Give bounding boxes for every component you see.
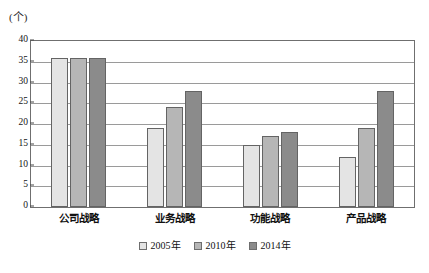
y-axis-tick-label: 25: [2, 98, 28, 108]
y-axis-tick-label: 10: [2, 160, 28, 170]
y-axis-tick-mark: [30, 185, 34, 186]
y-axis-tick-mark: [30, 40, 34, 41]
bar: [377, 91, 394, 207]
legend-item[interactable]: 2005年: [139, 240, 181, 251]
bar: [147, 128, 164, 207]
y-axis: 0510152025303540: [0, 40, 28, 208]
y-axis-tick-label: 15: [2, 139, 28, 149]
x-axis-category-label: 产品战略: [318, 212, 414, 226]
bar-chart: (个) 0510152025303540 公司战略业务战略功能战略产品战略 20…: [0, 0, 429, 273]
y-axis-tick-mark: [30, 143, 34, 144]
y-axis-tick-label: 35: [2, 56, 28, 66]
bar: [89, 58, 106, 207]
y-axis-tick-label: 30: [2, 77, 28, 87]
bar: [281, 132, 298, 207]
bar: [51, 58, 68, 207]
bar: [262, 136, 279, 207]
legend-item[interactable]: 2010年: [194, 240, 236, 251]
y-axis-tick-mark: [30, 81, 34, 82]
y-axis-tick-mark: [30, 60, 34, 61]
legend-item[interactable]: 2014年: [249, 240, 291, 251]
bar-group: [339, 41, 394, 207]
legend-swatch-icon: [139, 242, 147, 250]
bar-group: [147, 41, 202, 207]
legend-swatch-icon: [249, 242, 257, 250]
y-axis-unit-label: (个): [9, 11, 27, 24]
legend-swatch-icon: [194, 242, 202, 250]
bars-layer: [31, 41, 414, 207]
y-axis-tick-label: 0: [2, 201, 28, 211]
legend-label: 2005年: [151, 240, 181, 251]
bar-group: [243, 41, 298, 207]
bar: [243, 145, 260, 207]
legend-label: 2010年: [206, 240, 236, 251]
bar: [358, 128, 375, 207]
x-axis-category-label: 业务战略: [127, 212, 223, 226]
bar-group: [51, 41, 106, 207]
x-axis-category-label: 功能战略: [223, 212, 319, 226]
bar: [166, 107, 183, 207]
x-axis-category-label: 公司战略: [31, 212, 127, 226]
y-axis-tick-label: 20: [2, 118, 28, 128]
y-axis-tick-label: 5: [2, 181, 28, 191]
y-axis-tick-label: 40: [2, 35, 28, 45]
y-axis-tick-mark: [30, 102, 34, 103]
y-axis-tick-mark: [30, 206, 34, 207]
bar: [70, 58, 87, 207]
x-axis-category-labels: 公司战略业务战略功能战略产品战略: [31, 212, 414, 230]
chart-legend: 2005年2010年2014年: [0, 240, 429, 251]
bar: [185, 91, 202, 207]
bar: [339, 157, 356, 207]
y-axis-tick-mark: [30, 123, 34, 124]
legend-label: 2014年: [261, 240, 291, 251]
y-axis-tick-mark: [30, 164, 34, 165]
